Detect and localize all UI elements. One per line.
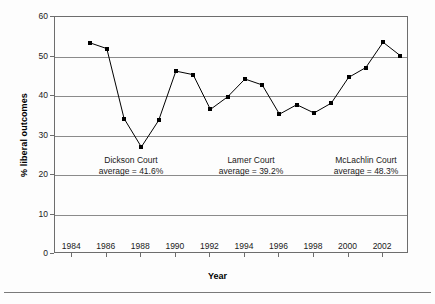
x-tick-mark [175,253,176,257]
annotation-court-name: Lamer Court [192,155,310,166]
y-tick-mark [50,253,54,254]
y-tick-label: 50 [2,52,48,60]
y-tick-mark [50,16,54,17]
x-tick-mark [106,253,107,257]
x-tick-mark [140,253,141,257]
series-line [55,17,409,254]
footer-rule [4,292,431,293]
annotation-dickson-court: Dickson Courtaverage = 41.6% [72,155,190,177]
y-tick-label: 10 [2,210,48,218]
annotation-court-name: McLachlin Court [307,155,425,166]
x-tick-mark [313,253,314,257]
y-tick-label: 60 [2,12,48,20]
y-tick-label: 30 [2,131,48,139]
x-tick-mark [244,253,245,257]
annotation-court-name: Dickson Court [72,155,190,166]
x-tick-mark [71,253,72,257]
annotation-mclachlin-court: McLachlin Courtaverage = 48.3% [307,155,425,177]
x-tick-label: 2002 [362,241,402,251]
x-tick-mark [382,253,383,257]
y-tick-label: 40 [2,91,48,99]
y-tick-mark [50,174,54,175]
x-tick-mark [209,253,210,257]
annotation-average: average = 48.3% [307,166,425,177]
x-tick-mark [348,253,349,257]
y-tick-label: 20 [2,170,48,178]
y-tick-mark [50,56,54,57]
y-tick-label: 0 [2,249,48,257]
plot-area [54,16,408,253]
annotation-lamer-court: Lamer Courtaverage = 39.2% [192,155,310,177]
annotation-average: average = 41.6% [72,166,190,177]
chart-figure: % liberal outcomes 0102030405060 1984198… [0,0,435,304]
y-tick-mark [50,214,54,215]
x-tick-mark [278,253,279,257]
x-axis-label: Year [0,271,435,281]
y-tick-mark [50,95,54,96]
y-tick-mark [50,135,54,136]
annotation-average: average = 39.2% [192,166,310,177]
